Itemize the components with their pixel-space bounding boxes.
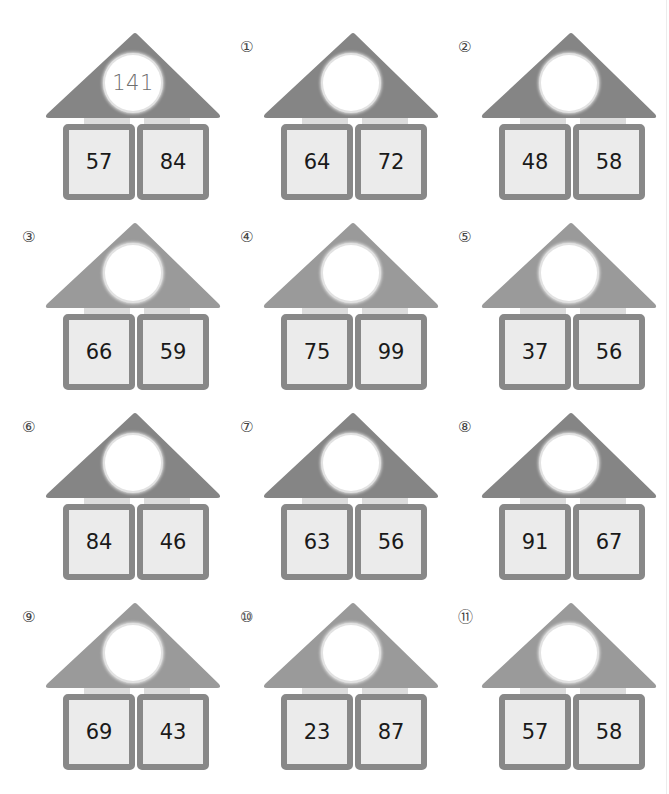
house-problem-1: ① 64 72 — [240, 28, 450, 218]
right-addend-box: 84 — [137, 124, 209, 200]
house-shape: 75 99 — [240, 218, 450, 408]
addend-boxes: 91 67 — [499, 504, 645, 580]
right-addend-box: 58 — [573, 124, 645, 200]
sum-answer-circle[interactable]: 141 — [105, 55, 161, 111]
addend-boxes: 84 46 — [63, 504, 209, 580]
addend-boxes: 69 43 — [63, 694, 209, 770]
right-addend-box: 43 — [137, 694, 209, 770]
sum-answer-circle[interactable] — [541, 245, 597, 301]
house-shape: 64 72 — [240, 28, 450, 218]
addend-boxes: 63 56 — [281, 504, 427, 580]
house-shape: 141 57 84 — [22, 28, 232, 218]
house-problem-11: ⑪ 57 58 — [458, 598, 668, 788]
addend-boxes: 23 87 — [281, 694, 427, 770]
sum-answer-circle[interactable] — [323, 625, 379, 681]
right-addend-box: 58 — [573, 694, 645, 770]
house-problem-9: ⑨ 69 43 — [22, 598, 232, 788]
right-addend-box: 56 — [355, 504, 427, 580]
right-addend-box: 56 — [573, 314, 645, 390]
house-problem-4: ④ 75 99 — [240, 218, 450, 408]
addend-boxes: 48 58 — [499, 124, 645, 200]
left-addend-box: 57 — [63, 124, 135, 200]
sum-answer-circle[interactable] — [541, 625, 597, 681]
house-problem-2: ② 48 58 — [458, 28, 668, 218]
left-addend-box: 91 — [499, 504, 571, 580]
sum-answer-circle[interactable] — [323, 245, 379, 301]
house-problem-8: ⑧ 91 67 — [458, 408, 668, 598]
addend-boxes: 37 56 — [499, 314, 645, 390]
house-shape: 84 46 — [22, 408, 232, 598]
house-problem-7: ⑦ 63 56 — [240, 408, 450, 598]
left-addend-box: 66 — [63, 314, 135, 390]
house-problem-5: ⑤ 37 56 — [458, 218, 668, 408]
addend-boxes: 66 59 — [63, 314, 209, 390]
sum-answer-circle[interactable] — [323, 55, 379, 111]
house-problem-6: ⑥ 84 46 — [22, 408, 232, 598]
house-shape: 37 56 — [458, 218, 668, 408]
left-addend-box: 57 — [499, 694, 571, 770]
house-shape: 63 56 — [240, 408, 450, 598]
left-addend-box: 23 — [281, 694, 353, 770]
house-shape: 57 58 — [458, 598, 668, 788]
sum-answer-circle[interactable] — [105, 625, 161, 681]
right-addend-box: 46 — [137, 504, 209, 580]
right-addend-box: 72 — [355, 124, 427, 200]
sum-answer-circle[interactable] — [323, 435, 379, 491]
example-house-problem: 141 57 84 — [22, 28, 232, 218]
sum-answer-circle[interactable] — [541, 435, 597, 491]
addend-boxes: 57 58 — [499, 694, 645, 770]
addend-boxes: 75 99 — [281, 314, 427, 390]
left-addend-box: 37 — [499, 314, 571, 390]
right-addend-box: 99 — [355, 314, 427, 390]
right-addend-box: 67 — [573, 504, 645, 580]
left-addend-box: 48 — [499, 124, 571, 200]
house-shape: 23 87 — [240, 598, 450, 788]
house-shape: 66 59 — [22, 218, 232, 408]
right-addend-box: 59 — [137, 314, 209, 390]
house-problem-3: ③ 66 59 — [22, 218, 232, 408]
left-addend-box: 64 — [281, 124, 353, 200]
left-addend-box: 63 — [281, 504, 353, 580]
sum-answer-circle[interactable] — [105, 245, 161, 301]
house-shape: 91 67 — [458, 408, 668, 598]
addend-boxes: 64 72 — [281, 124, 427, 200]
addend-boxes: 57 84 — [63, 124, 209, 200]
left-addend-box: 84 — [63, 504, 135, 580]
house-problem-10: ⑩ 23 87 — [240, 598, 450, 788]
left-addend-box: 69 — [63, 694, 135, 770]
right-addend-box: 87 — [355, 694, 427, 770]
left-addend-box: 75 — [281, 314, 353, 390]
house-shape: 69 43 — [22, 598, 232, 788]
sum-answer-circle[interactable] — [105, 435, 161, 491]
sum-answer-circle[interactable] — [541, 55, 597, 111]
house-shape: 48 58 — [458, 28, 668, 218]
